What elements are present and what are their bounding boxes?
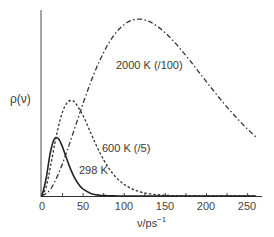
x-axis-label-main: ν/ps: [137, 217, 157, 229]
series-label-2000K: 2000 K (/100): [116, 60, 183, 71]
x-axis-label-exponent: −1: [157, 215, 166, 224]
series-2000K-line: [42, 19, 256, 196]
x-tick-label-0: 0: [39, 201, 45, 212]
x-tick-label-50: 50: [77, 201, 89, 212]
x-tick-label-100: 100: [115, 201, 133, 212]
x-tick-label-250: 250: [238, 201, 256, 212]
y-axis-label: ρ(ν): [10, 93, 31, 105]
series-label-298K: 298 K: [79, 165, 108, 176]
x-axis-label: ν/ps−1: [137, 216, 166, 229]
x-tick-label-200: 200: [197, 201, 215, 212]
x-tick-label-150: 150: [156, 201, 174, 212]
series-label-600K: 600 K (/5): [102, 143, 150, 154]
